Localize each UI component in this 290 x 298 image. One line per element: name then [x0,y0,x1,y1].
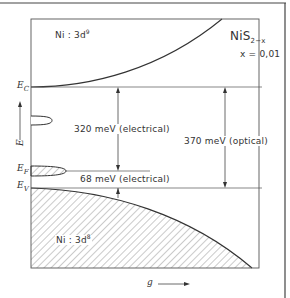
ef-label: EF [17,163,29,173]
gap-370-label: 370 meV (optical) [183,136,269,146]
energy-axis-label: E [15,139,25,146]
ec-label: EC [17,80,29,90]
band-diagram [0,0,290,298]
gap-68-label: 68 meV (electrical) [80,174,170,184]
gap-320-label: 320 meV (electrical) [73,124,171,134]
impurity-band-filled [31,166,66,176]
lower-region-label: Ni : 3d8 [55,235,92,245]
valence-band-fill [31,188,252,268]
g-axis-label: g [147,277,153,287]
impurity-band-empty [31,116,52,125]
compound-formula: NiS2−x [230,29,266,43]
upper-region-label: Ni : 3d9 [55,30,90,40]
ev-label: EV [17,180,29,190]
composition-parameter: x = 0,01 [240,49,280,59]
